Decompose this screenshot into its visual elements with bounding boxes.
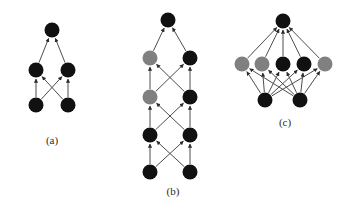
panel-caption-b: (b) [167, 185, 180, 198]
graph-node [143, 51, 158, 66]
graph-node [61, 63, 76, 78]
graph-node [183, 165, 198, 180]
graph-edge [301, 73, 303, 92]
graph-node [183, 128, 198, 143]
graph-node [258, 93, 273, 108]
graph-node [161, 13, 176, 28]
edges-layer [36, 27, 320, 166]
panel-caption-a: (a) [46, 134, 59, 147]
graph-edge [287, 29, 301, 57]
graph-node [143, 90, 158, 105]
graph-edge [173, 28, 186, 51]
figure-container: (a)(b)(c) [0, 0, 347, 210]
graph-node [29, 98, 44, 113]
graph-edge [156, 141, 184, 166]
graph-node [297, 57, 312, 72]
graph-node [61, 98, 76, 113]
graph-node [183, 90, 198, 105]
graph-edge [157, 141, 185, 166]
graph-edge [263, 73, 265, 92]
nodes-layer [29, 13, 333, 180]
graph-node [143, 165, 158, 180]
graph-edge [153, 28, 164, 51]
graph-node [183, 51, 198, 66]
graph-node [318, 57, 333, 72]
graph-node [29, 63, 44, 78]
graph-edge [39, 38, 49, 62]
graph-edge [266, 29, 280, 57]
graph-node [255, 57, 270, 72]
network-diagram-canvas: (a)(b)(c) [0, 0, 347, 210]
graph-node [143, 128, 158, 143]
graph-edge [55, 38, 65, 62]
graph-node [276, 14, 291, 29]
graph-node [235, 57, 250, 72]
panel-caption-c: (c) [279, 116, 292, 129]
graph-edge [271, 70, 298, 94]
graph-node [45, 23, 60, 38]
graph-node [293, 93, 308, 108]
captions-layer: (a)(b)(c) [46, 116, 292, 198]
graph-node [276, 57, 291, 72]
